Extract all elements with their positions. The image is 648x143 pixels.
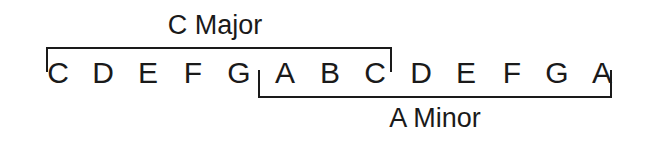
bracket-c-major-line <box>46 47 392 49</box>
music-scale-bracket-diagram: C Major CDEFGABCDEFGA A Minor <box>0 0 648 143</box>
bracket-a-minor-tick-right <box>610 70 612 98</box>
bracket-a-minor <box>258 70 612 98</box>
key-label-c-major: C Major <box>0 10 430 40</box>
note-letter: F <box>175 57 211 89</box>
note-letter: G <box>221 57 257 89</box>
bracket-a-minor-line <box>258 96 612 98</box>
key-label-a-minor: A Minor <box>250 103 620 133</box>
note-letter: E <box>130 57 166 89</box>
bracket-a-minor-tick-left <box>258 70 260 98</box>
note-letter: D <box>85 57 121 89</box>
note-letter: C <box>40 57 76 89</box>
